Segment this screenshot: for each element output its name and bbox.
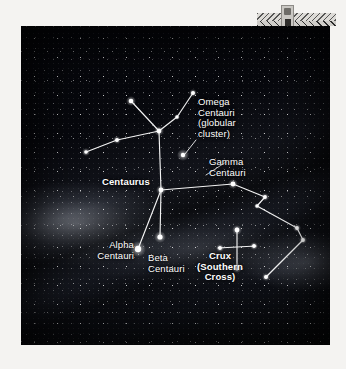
chip-top-square xyxy=(284,8,291,15)
sky-photograph: Omega Centauri (globular cluster) Gamma … xyxy=(21,26,330,345)
scan-artifact-band xyxy=(257,13,336,26)
page-canvas: Omega Centauri (globular cluster) Gamma … xyxy=(0,0,346,369)
photo-vignette xyxy=(21,26,330,345)
